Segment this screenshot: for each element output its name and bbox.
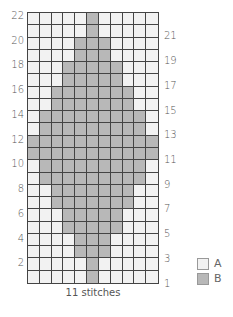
stitch-cell (40, 160, 52, 172)
stitch-cell (99, 185, 111, 197)
stitch-cell (99, 87, 111, 99)
stitch-cell (111, 160, 123, 172)
stitch-cell (123, 13, 135, 25)
stitch-cell (87, 160, 99, 172)
row-number-label: 13 (164, 129, 177, 141)
stitch-cell (28, 13, 40, 25)
row-number-label: 16 (4, 84, 24, 96)
stitch-cell (40, 258, 52, 270)
stitch-cell (123, 173, 135, 185)
stitch-cell (87, 62, 99, 74)
stitch-cell (111, 87, 123, 99)
stitch-cell (52, 25, 64, 37)
row-number-label: 6 (4, 208, 24, 220)
stitch-cell (63, 38, 75, 50)
stitch-cell (111, 99, 123, 111)
stitch-cell (87, 136, 99, 148)
row-number-label: 15 (164, 105, 177, 117)
stitch-cell (87, 258, 99, 270)
stitch-cell (63, 173, 75, 185)
stitch-cell (134, 111, 146, 123)
stitch-cell (99, 25, 111, 37)
stitch-cell (134, 160, 146, 172)
stitch-cell (123, 123, 135, 135)
stitch-cell (146, 258, 158, 270)
stitch-cell (99, 271, 111, 283)
row-number-label: 7 (164, 203, 170, 215)
stitch-cell (134, 74, 146, 86)
stitch-cell (28, 87, 40, 99)
stitch-cell (99, 173, 111, 185)
stitch-cell (146, 271, 158, 283)
stitch-cell (40, 197, 52, 209)
stitch-cell (123, 222, 135, 234)
stitch-cell (87, 13, 99, 25)
stitch-cell (134, 258, 146, 270)
stitch-cell (52, 246, 64, 258)
row-number-label: 19 (164, 55, 177, 67)
stitch-cell (111, 197, 123, 209)
stitch-cell (146, 111, 158, 123)
stitch-cell (63, 74, 75, 86)
stitch-cell (87, 222, 99, 234)
stitch-cell (28, 62, 40, 74)
stitch-cell (28, 99, 40, 111)
stitch-cell (52, 197, 64, 209)
row-number-label: 14 (4, 109, 24, 121)
stitch-cell (63, 197, 75, 209)
stitch-cell (87, 234, 99, 246)
stitch-cell (134, 197, 146, 209)
stitch-cell (134, 185, 146, 197)
stitch-cell (75, 87, 87, 99)
stitch-cell (99, 258, 111, 270)
stitch-cell (63, 258, 75, 270)
stitch-cell (99, 111, 111, 123)
stitch-cell (87, 38, 99, 50)
row-number-label: 22 (4, 10, 24, 22)
stitch-cell (123, 197, 135, 209)
stitch-cell (75, 111, 87, 123)
stitch-cell (99, 136, 111, 148)
stitch-cell (40, 62, 52, 74)
stitch-cell (52, 62, 64, 74)
row-number-label: 9 (164, 179, 170, 191)
stitch-cell (28, 148, 40, 160)
row-number-label: 21 (164, 30, 177, 42)
row-number-label: 11 (164, 154, 177, 166)
stitch-cell (52, 271, 64, 283)
stitch-cell (40, 234, 52, 246)
stitch-cell (99, 234, 111, 246)
stitch-cell (63, 209, 75, 221)
stitch-cell (40, 99, 52, 111)
stitch-cell (134, 271, 146, 283)
stitch-cell (28, 123, 40, 135)
row-number-label: 20 (4, 35, 24, 47)
stitch-cell (146, 197, 158, 209)
stitch-cell (123, 38, 135, 50)
stitch-cell (111, 258, 123, 270)
stitch-cell (123, 271, 135, 283)
stitch-cell (87, 74, 99, 86)
stitch-cell (63, 234, 75, 246)
stitch-cell (99, 209, 111, 221)
stitch-cell (52, 123, 64, 135)
stitch-cell (40, 13, 52, 25)
stitch-cell (28, 160, 40, 172)
stitch-cell (134, 209, 146, 221)
row-number-label: 12 (4, 134, 24, 146)
stitch-cell (63, 123, 75, 135)
stitch-cell (99, 222, 111, 234)
stitch-cell (111, 50, 123, 62)
row-number-label: 3 (164, 253, 170, 265)
stitch-cell (87, 209, 99, 221)
stitch-cell (40, 246, 52, 258)
stitch-cell (146, 173, 158, 185)
stitch-cell (52, 87, 64, 99)
stitch-cell (123, 99, 135, 111)
stitch-cell (75, 197, 87, 209)
stitch-cell (40, 87, 52, 99)
stitch-cell (123, 185, 135, 197)
stitch-cell (63, 185, 75, 197)
stitch-cell (75, 209, 87, 221)
stitch-cell (28, 197, 40, 209)
